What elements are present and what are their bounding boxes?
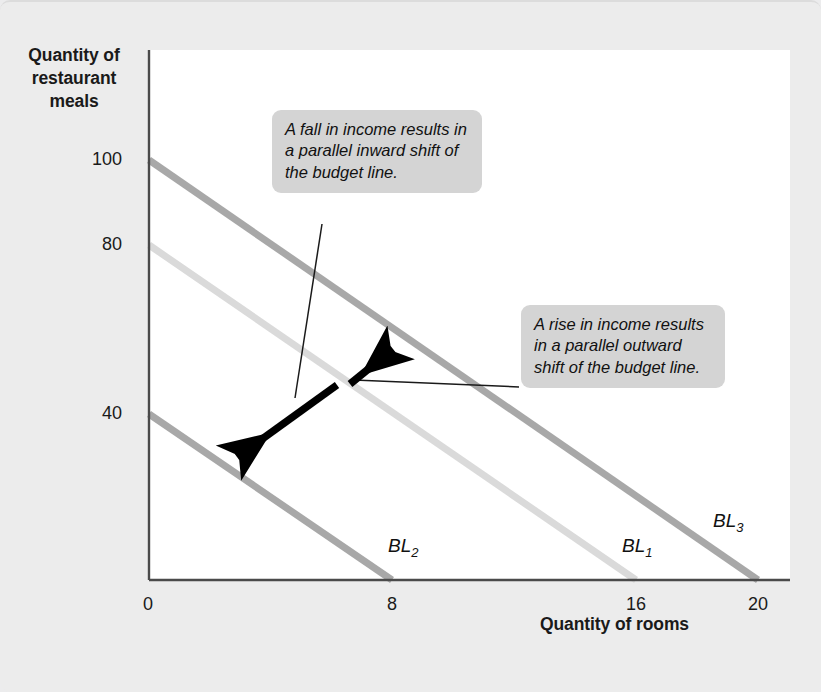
series-label-bl3-sub: 3 xyxy=(736,520,743,535)
y-tick-label-100: 100 xyxy=(62,149,122,170)
y-axis-label-line3: meals xyxy=(8,90,140,113)
series-label-bl3: BL3 xyxy=(713,510,743,535)
series-label-bl2: BL2 xyxy=(388,535,418,560)
series-label-bl1-sub: 1 xyxy=(645,545,652,560)
leader-line-outward xyxy=(354,380,519,387)
series-label-bl1: BL1 xyxy=(622,535,652,560)
series-label-bl3-text: BL xyxy=(713,510,736,531)
y-axis-label-line2: restaurant xyxy=(8,67,140,90)
annotation-outward-shift: A rise in income results in a parallel o… xyxy=(521,305,725,388)
y-axis-label: Quantity of restaurant meals xyxy=(8,44,140,113)
y-axis-label-line1: Quantity of xyxy=(8,44,140,67)
x-tick-label-20: 20 xyxy=(728,594,788,615)
series-label-bl1-text: BL xyxy=(622,535,645,556)
arrow-inward-shift xyxy=(237,385,337,457)
x-tick-label-8: 8 xyxy=(362,594,422,615)
arrow-outward-shift xyxy=(350,349,393,384)
leader-line-inward xyxy=(295,224,322,398)
chart-card: Quantity of restaurant meals Quantity of… xyxy=(0,0,821,692)
x-tick-label-0: 0 xyxy=(118,594,178,615)
series-label-bl2-sub: 2 xyxy=(411,545,418,560)
series-label-bl2-text: BL xyxy=(388,535,411,556)
y-tick-label-40: 40 xyxy=(62,403,122,424)
x-axis-label: Quantity of rooms xyxy=(540,614,689,635)
x-tick-label-16: 16 xyxy=(606,594,666,615)
budget-line-bl1 xyxy=(149,245,636,580)
annotation-inward-shift: A fall in income results in a parallel i… xyxy=(272,110,482,193)
y-tick-label-80: 80 xyxy=(62,234,122,255)
budget-line-bl2 xyxy=(149,414,392,580)
